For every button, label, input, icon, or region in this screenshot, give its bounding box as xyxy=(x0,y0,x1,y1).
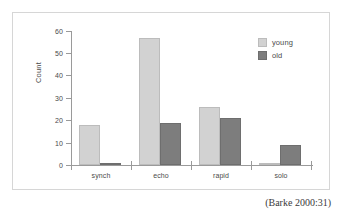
bar-rapid-old xyxy=(220,118,241,165)
x-axis-label-echo: echo xyxy=(136,172,186,180)
x-axis-label-rapid: rapid xyxy=(196,172,246,180)
y-axis-line xyxy=(71,31,72,166)
legend-swatch-old-icon xyxy=(258,51,267,60)
y-tick-mark xyxy=(66,98,71,99)
bar-solo-young xyxy=(259,163,280,165)
x-tick-mark xyxy=(191,161,192,170)
bar-rapid-young xyxy=(199,107,220,165)
x-tick-mark xyxy=(71,161,72,170)
x-tick-mark xyxy=(311,161,312,170)
y-tick-label: 20 xyxy=(33,117,63,124)
y-tick-label: 50 xyxy=(33,50,63,57)
y-tick-mark xyxy=(66,53,71,54)
chart-legend: young old xyxy=(258,37,324,63)
bar-synch-young xyxy=(79,125,100,165)
x-axis-label-synch: synch xyxy=(76,172,126,180)
y-tick-label: 30 xyxy=(33,95,63,102)
figure-container: Count 0 10 20 30 40 50 60 xyxy=(0,0,347,221)
legend-swatch-young-icon xyxy=(258,38,267,47)
bar-echo-old xyxy=(160,123,181,165)
legend-label-young: young xyxy=(272,38,293,47)
y-tick-mark xyxy=(66,31,71,32)
bar-solo-old xyxy=(280,145,301,165)
legend-item-old: old xyxy=(258,50,324,61)
y-tick-mark xyxy=(66,75,71,76)
legend-label-old: old xyxy=(272,51,282,60)
chart-frame: Count 0 10 20 30 40 50 60 xyxy=(12,12,330,190)
figure-caption: (Barke 2000:31) xyxy=(265,197,331,209)
legend-item-young: young xyxy=(258,37,324,48)
y-tick-label: 10 xyxy=(33,140,63,147)
plot-area: Count 0 10 20 30 40 50 60 xyxy=(13,13,331,191)
bar-synch-old xyxy=(100,163,121,165)
y-tick-mark xyxy=(66,120,71,121)
x-tick-mark xyxy=(251,161,252,170)
y-tick-label: 60 xyxy=(33,28,63,35)
y-tick-label: 40 xyxy=(33,72,63,79)
x-tick-mark xyxy=(131,161,132,170)
bar-echo-young xyxy=(139,38,160,165)
y-tick-label: 0 xyxy=(33,162,63,169)
x-axis-label-solo: solo xyxy=(256,172,306,180)
y-tick-mark xyxy=(66,143,71,144)
x-axis-line xyxy=(71,165,313,166)
